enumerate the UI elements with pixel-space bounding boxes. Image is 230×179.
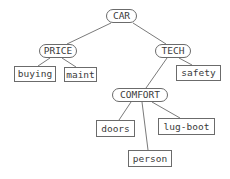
- edge-comfort-doors: [119, 102, 131, 120]
- edge-car-price: [67, 23, 111, 44]
- node-car: CAR: [106, 9, 137, 23]
- node-safety: safety: [176, 65, 221, 81]
- node-lug-boot: lug-boot: [158, 118, 215, 135]
- edge-comfort-person: [142, 102, 148, 150]
- node-tech: TECH: [155, 44, 191, 58]
- edge-tech-comfort: [146, 58, 167, 88]
- node-price: PRICE: [39, 44, 77, 58]
- edge-comfort-lugboot: [152, 102, 180, 118]
- edge-price-buying: [38, 58, 50, 66]
- node-buying: buying: [14, 66, 56, 82]
- edge-car-tech: [133, 23, 166, 44]
- node-person: person: [128, 150, 172, 167]
- node-doors: doors: [96, 120, 135, 137]
- edge-price-maint: [62, 58, 76, 67]
- node-maint: maint: [64, 67, 97, 82]
- node-comfort: COMFORT: [112, 88, 168, 102]
- edge-tech-safety: [179, 58, 192, 65]
- decision-tree-diagram: CAR PRICE TECH COMFORT buying maint safe…: [0, 0, 230, 179]
